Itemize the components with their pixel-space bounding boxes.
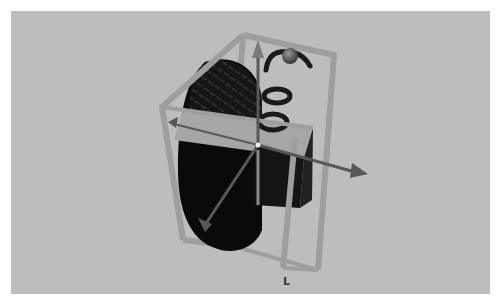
axis-marker-label: L	[283, 275, 290, 288]
tire	[178, 59, 262, 251]
pivot-point	[256, 143, 261, 148]
scene	[11, 11, 490, 294]
3d-viewport[interactable]: L	[11, 11, 490, 294]
spring	[259, 52, 310, 130]
pivot-ball	[282, 48, 298, 64]
